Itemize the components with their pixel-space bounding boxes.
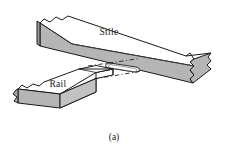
rail-left-end-face [13,89,18,103]
stile-left-end-face [37,21,40,46]
mortise-tenon-diagram: Stile Rail (a) [0,0,228,151]
figure-caption: (a) [109,132,120,143]
rail-label: Rail [49,79,66,89]
figure-container: Stile Rail (a) [0,0,228,151]
stile-label: Stile [100,27,119,37]
stile-part [37,16,211,83]
